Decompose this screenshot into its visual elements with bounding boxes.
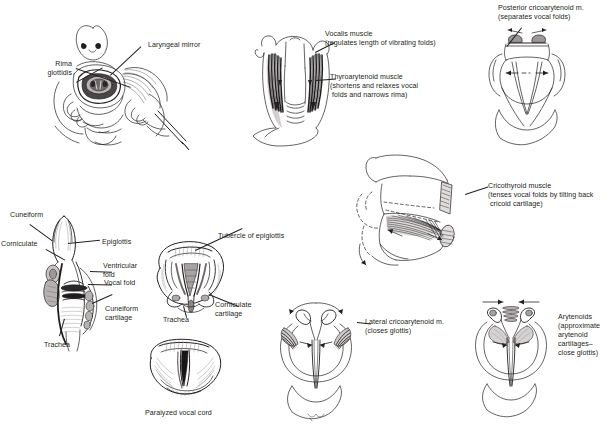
label-vocal-fold: Vocal fold [104,279,135,288]
figure-arytenoid-muscles [465,296,557,420]
figure-cricothyroid-muscle [352,152,477,274]
figure-anterior-larynx-muscles [252,32,338,147]
label-lateral-cricoarytenoid: Lateral cricoarytenoid m. (closes glotti… [365,318,444,336]
label-ventricular-fold: Ventricular fold [103,262,137,280]
label-thyroarytenoid-muscle: Thyroarytenoid muscle (shortens and rela… [330,73,418,100]
label-cricothyroid-muscle: Cricothyroid muscle (tenses vocal folds … [488,182,593,209]
label-laryngeal-mirror: Laryngeal mirror [148,41,200,50]
label-paralyzed-vocal-cord: Paralyzed vocal cord [145,409,212,418]
figure-posterior-cricoarytenoid [482,26,574,148]
label-epiglottis: Epiglottis [102,238,131,247]
label-arytenoids: Arytenoids (approximate arytenoid cartil… [558,313,600,358]
label-tubercle-of-epiglottis: Tubercle of epiglottis [218,232,284,241]
label-posterior-cricoarytenoid: Posterior cricoarytenoid m. (separates v… [498,4,584,22]
label-cuneiform: Cuneiform [10,211,43,220]
label-vocalis-muscle: Vocalis muscle (regulates length of vibr… [325,30,436,48]
label-corniculate-cartilage: Corniculate cartilage [215,301,251,319]
label-trachea-center: Trachea [163,316,189,325]
figure-paralyzed-vocal-cord [143,336,229,400]
label-trachea-left: Trachea [44,341,70,350]
figure-lateral-cricoarytenoid [270,300,362,422]
label-cuneiform-cartilage: Cuneiform cartilage [105,305,138,323]
label-corniculate: Corniculate [1,240,37,249]
label-rima-glottidis: Rima glottidis [12,60,72,78]
anatomy-plate: Rima glottidis Laryngeal mirror [0,0,612,426]
